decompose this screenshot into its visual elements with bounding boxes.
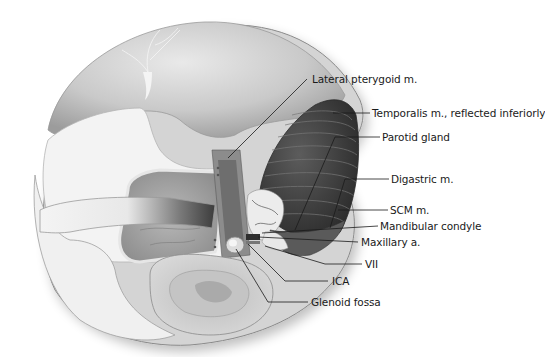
glenoid-highlight — [229, 240, 237, 247]
label-glenoid-fossa: Glenoid fossa — [311, 296, 381, 308]
label-scm: SCM m. — [390, 204, 429, 216]
label-parotid-gland: Parotid gland — [382, 131, 450, 143]
label-maxillary-artery: Maxillary a. — [361, 236, 420, 248]
label-temporalis: Temporalis m., reflected inferiorly — [372, 107, 545, 119]
vessel-bundle — [246, 234, 260, 240]
label-mandibular-condyle: Mandibular condyle — [380, 220, 481, 232]
ear — [150, 254, 273, 335]
label-vii: VII — [365, 258, 378, 270]
label-ica: ICA — [332, 275, 349, 287]
vessel-bundle-lower — [246, 241, 260, 244]
label-digastric: Digastric m. — [391, 173, 453, 185]
label-lateral-pterygoid: Lateral pterygoid m. — [312, 73, 417, 85]
